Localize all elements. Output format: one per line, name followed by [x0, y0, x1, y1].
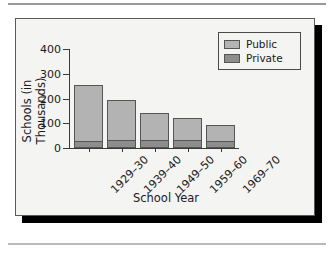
chart-figure: Schools (in Thousands) 0100200300400 192…	[15, 18, 315, 216]
bar-segment-private-1969–70	[207, 141, 234, 147]
bar-1969–70	[206, 125, 235, 148]
y-tick-100	[63, 123, 70, 124]
x-tick-1969–70	[221, 148, 222, 152]
bar-segment-private-1929–30	[75, 141, 102, 147]
legend-label-private: Private	[246, 53, 283, 64]
x-tick-1949–50	[155, 148, 156, 152]
legend-swatch-public	[224, 40, 240, 49]
page-rule-top	[8, 3, 326, 5]
y-tick-400	[63, 49, 70, 50]
x-axis-title: School Year	[16, 191, 316, 205]
y-tick-label-400: 400	[21, 44, 61, 55]
legend-item-public[interactable]: Public	[224, 37, 295, 51]
y-tick-0	[63, 148, 70, 149]
bar-1959–60	[173, 118, 202, 148]
bar-1949–50	[140, 113, 169, 148]
bar-1929–30	[74, 85, 103, 148]
y-tick-200	[63, 99, 70, 100]
bar-segment-private-1959–60	[174, 140, 201, 147]
y-tick-label-100: 100	[21, 118, 61, 129]
bar-1939–40	[107, 100, 136, 148]
legend-label-public: Public	[246, 39, 277, 50]
plot-area: Schools (in Thousands) 0100200300400 192…	[16, 19, 314, 215]
y-tick-label-0: 0	[21, 143, 61, 154]
chart-legend: Public Private	[218, 32, 301, 70]
y-tick-300	[63, 74, 70, 75]
y-tick-label-200: 200	[21, 94, 61, 105]
bar-segment-private-1939–40	[108, 140, 135, 147]
y-tick-label-300: 300	[21, 69, 61, 80]
y-axis-title: Schools (in Thousands)	[20, 46, 48, 176]
legend-item-private[interactable]: Private	[224, 51, 295, 65]
bar-segment-private-1949–50	[141, 140, 168, 147]
legend-swatch-private	[224, 54, 240, 63]
page-rule-bottom	[8, 243, 326, 245]
x-tick-1959–60	[188, 148, 189, 152]
x-tick-1939–40	[122, 148, 123, 152]
x-tick-1929–30	[89, 148, 90, 152]
